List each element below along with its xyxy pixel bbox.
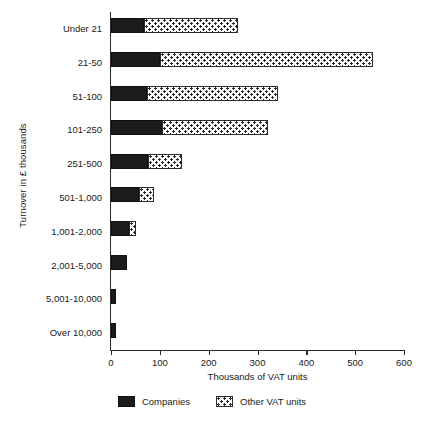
bar-segment-other-vat-units[interactable] (144, 18, 238, 33)
bar-segment-companies[interactable] (111, 52, 160, 67)
vat-units-bar-chart: Turnover in £ thousands Under 2121-5051-… (0, 0, 424, 424)
bar-segment-companies[interactable] (111, 323, 116, 338)
x-axis-tick-label-1: 100 (140, 357, 180, 368)
bar-row[interactable] (111, 120, 404, 135)
bar-segment-companies[interactable] (111, 120, 162, 135)
legend-item-companies: Companies (118, 396, 190, 407)
plot-area (111, 12, 404, 350)
bar-row[interactable] (111, 289, 404, 304)
y-axis-label-8: 5,001-10,000 (0, 294, 102, 304)
x-axis-tick-label-3: 300 (238, 357, 278, 368)
legend-item-other-vat-units: Other VAT units (216, 396, 306, 407)
x-axis-tick-label-2: 200 (189, 357, 229, 368)
bar-segment-companies[interactable] (111, 221, 129, 236)
x-axis-tick-mark (306, 350, 307, 355)
bar-row[interactable] (111, 221, 404, 236)
y-axis-label-1: 21-50 (0, 58, 102, 68)
legend-label-other-vat-units: Other VAT units (240, 396, 306, 407)
bar-segment-companies[interactable] (111, 86, 147, 101)
y-axis-label-4: 251-500 (0, 159, 102, 169)
bar-row[interactable] (111, 255, 404, 270)
bar-row[interactable] (111, 86, 404, 101)
x-axis-tick-label-5: 500 (335, 357, 375, 368)
bar-segment-other-vat-units[interactable] (129, 221, 136, 236)
bar-row[interactable] (111, 18, 404, 33)
x-axis-tick-label-4: 400 (286, 357, 326, 368)
y-axis-label-0: Under 21 (0, 24, 102, 34)
bar-segment-other-vat-units[interactable] (162, 120, 268, 135)
bar-segment-companies[interactable] (111, 187, 139, 202)
x-axis-tick-mark (111, 350, 112, 355)
y-axis-label-6: 1,001-2,000 (0, 227, 102, 237)
y-axis-label-5: 501-1,000 (0, 193, 102, 203)
x-axis-tick-mark (209, 350, 210, 355)
x-axis-title: Thousands of VAT units (111, 371, 404, 382)
bar-segment-companies[interactable] (111, 18, 144, 33)
x-axis-tick-mark (355, 350, 356, 355)
bar-segment-companies[interactable] (111, 255, 127, 270)
x-axis-tick-mark (258, 350, 259, 355)
y-axis-label-9: Over 10,000 (0, 328, 102, 338)
bar-row[interactable] (111, 187, 404, 202)
bar-segment-companies[interactable] (111, 154, 148, 169)
y-axis-label-3: 101-250 (0, 125, 102, 135)
y-axis-label-2: 51-100 (0, 92, 102, 102)
y-axis-category-labels: Under 2121-5051-100101-250251-500501-1,0… (0, 12, 106, 350)
chart-legend: Companies Other VAT units (0, 391, 424, 411)
bar-segment-other-vat-units[interactable] (139, 187, 154, 202)
x-axis-tick-mark (404, 350, 405, 355)
y-axis-label-7: 2,001-5,000 (0, 261, 102, 271)
bar-segment-companies[interactable] (111, 289, 116, 304)
bar-segment-other-vat-units[interactable] (160, 52, 373, 67)
x-axis-tick-label-6: 600 (384, 357, 424, 368)
legend-swatch-companies-icon (118, 396, 135, 407)
x-axis-tick-label-0: 0 (91, 357, 131, 368)
legend-swatch-other-vat-units-icon (216, 396, 233, 407)
bar-segment-other-vat-units[interactable] (147, 86, 278, 101)
bar-row[interactable] (111, 154, 404, 169)
legend-label-companies: Companies (142, 396, 190, 407)
x-axis-tick-mark (160, 350, 161, 355)
bar-row[interactable] (111, 323, 404, 338)
bar-row[interactable] (111, 52, 404, 67)
bar-segment-other-vat-units[interactable] (148, 154, 182, 169)
